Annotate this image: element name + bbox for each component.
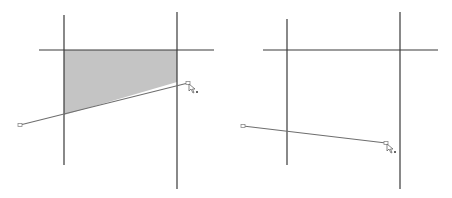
cursor-arrow	[189, 84, 195, 93]
panel-left	[18, 12, 214, 189]
segment-start-handle[interactable]	[241, 125, 245, 128]
clip-segment[interactable]	[243, 126, 386, 143]
cursor-badge	[196, 91, 198, 93]
move-cursor-icon	[189, 84, 198, 93]
diagram-canvas	[0, 0, 452, 198]
move-cursor-icon	[387, 144, 396, 153]
segment-start-handle[interactable]	[18, 124, 22, 127]
panel-right	[241, 12, 438, 189]
cursor-arrow	[387, 144, 393, 153]
cursor-badge	[394, 151, 396, 153]
shaded-region	[64, 50, 177, 115]
